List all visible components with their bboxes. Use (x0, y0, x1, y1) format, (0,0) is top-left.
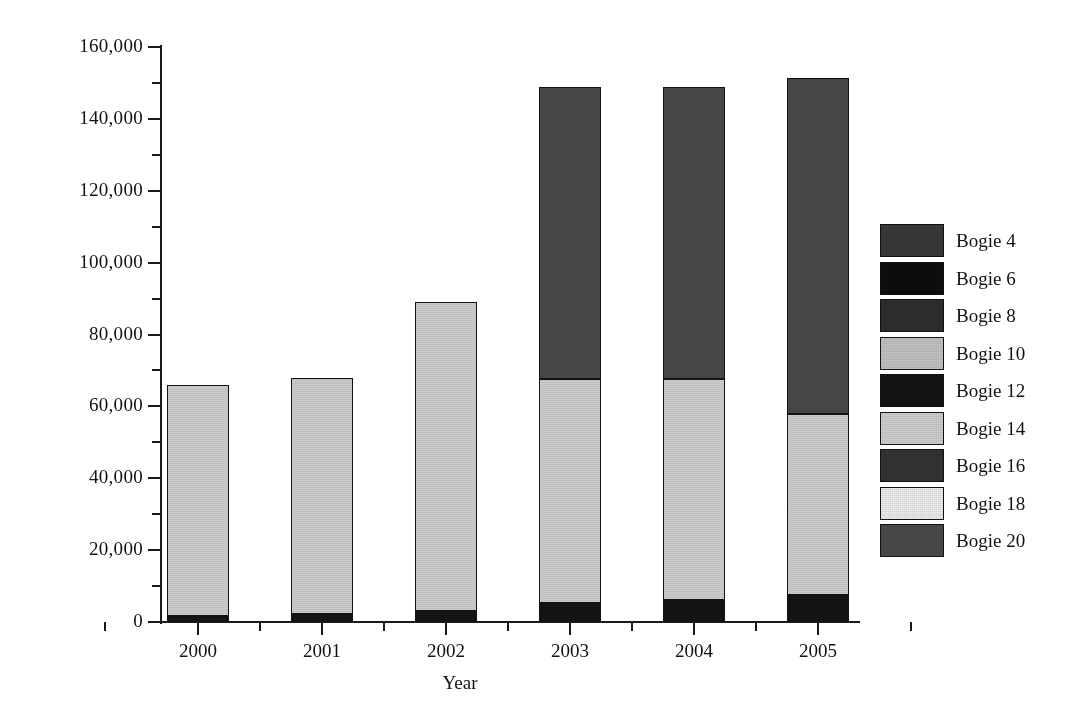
x-tick-minor (507, 622, 509, 631)
y-tick-major (148, 262, 161, 264)
legend-item-bogie-18[interactable]: Bogie 18 (880, 485, 1025, 523)
y-tick-label: 140,000 (33, 108, 143, 127)
legend-swatch-icon (880, 299, 944, 332)
segment-texture (292, 379, 352, 614)
legend-label: Bogie 4 (956, 231, 1016, 250)
legend-label: Bogie 16 (956, 456, 1025, 475)
x-tick-label: 2002 (396, 640, 496, 662)
swatch-texture (881, 450, 943, 481)
legend-item-bogie-6[interactable]: Bogie 6 (880, 260, 1025, 298)
x-tick-minor (755, 622, 757, 631)
swatch-texture (881, 338, 943, 369)
segment-texture (540, 380, 600, 602)
swatch-texture (881, 225, 943, 256)
x-tick-minor (631, 622, 633, 631)
bar-2005 (787, 47, 849, 622)
x-tick-major (197, 622, 199, 635)
segment-texture (788, 79, 848, 414)
y-tick-major (148, 405, 161, 407)
x-tick-label: 2003 (520, 640, 620, 662)
legend-item-bogie-4[interactable]: Bogie 4 (880, 222, 1025, 260)
legend-item-bogie-16[interactable]: Bogie 16 (880, 447, 1025, 485)
legend-label: Bogie 8 (956, 306, 1016, 325)
segment-texture (664, 380, 724, 599)
x-tick-major (321, 622, 323, 635)
x-tick-minor (259, 622, 261, 631)
bar-segment-2000-bogie-12 (167, 616, 229, 622)
legend-item-bogie-10[interactable]: Bogie 10 (880, 335, 1025, 373)
legend-item-bogie-12[interactable]: Bogie 12 (880, 372, 1025, 410)
swatch-texture (881, 525, 943, 556)
bar-segment-2001-bogie-12 (291, 614, 353, 622)
bar-segment-2004-bogie-12 (663, 600, 725, 622)
y-tick-major (148, 621, 161, 623)
legend-swatch-icon (880, 412, 944, 445)
bar-segment-2005-bogie-14 (787, 414, 849, 595)
segment-texture (664, 88, 724, 379)
y-tick-major (148, 46, 161, 48)
segment-texture (540, 88, 600, 379)
stacked-bar-chart: 020,00040,00060,00080,000100,000120,0001… (0, 0, 1080, 725)
legend-swatch-icon (880, 449, 944, 482)
legend-label: Bogie 20 (956, 531, 1025, 550)
swatch-texture (881, 413, 943, 444)
bar-2002 (415, 47, 477, 622)
legend-swatch-icon (880, 524, 944, 557)
y-tick-major (148, 334, 161, 336)
y-tick-label: 20,000 (33, 539, 143, 558)
bar-2001 (291, 47, 353, 622)
y-tick-minor (152, 298, 161, 300)
bar-2000 (167, 47, 229, 622)
segment-texture (292, 615, 352, 621)
legend-item-bogie-20[interactable]: Bogie 20 (880, 522, 1025, 560)
x-axis-title: Year (0, 672, 1080, 694)
y-tick-minor (152, 441, 161, 443)
bar-segment-2002-bogie-12 (415, 611, 477, 622)
legend-swatch-icon (880, 224, 944, 257)
bar-2003 (539, 47, 601, 622)
x-tick-label: 2004 (644, 640, 744, 662)
x-tick-label: 2001 (272, 640, 372, 662)
x-tick-minor (104, 622, 106, 631)
legend-swatch-icon (880, 337, 944, 370)
y-tick-label: 160,000 (33, 36, 143, 55)
x-tick-minor (383, 622, 385, 631)
bar-2004 (663, 47, 725, 622)
legend-swatch-icon (880, 262, 944, 295)
legend: Bogie 4Bogie 6Bogie 8Bogie 10Bogie 12Bog… (880, 222, 1025, 560)
y-tick-minor (152, 82, 161, 84)
legend-label: Bogie 12 (956, 381, 1025, 400)
segment-texture (788, 596, 848, 621)
bar-segment-2005-bogie-12 (787, 595, 849, 622)
legend-swatch-icon (880, 487, 944, 520)
y-tick-label: 80,000 (33, 324, 143, 343)
y-tick-minor (152, 226, 161, 228)
y-tick-major (148, 477, 161, 479)
swatch-texture (881, 263, 943, 294)
y-tick-label: 100,000 (33, 252, 143, 271)
segment-texture (788, 415, 848, 594)
y-tick-minor (152, 513, 161, 515)
legend-item-bogie-14[interactable]: Bogie 14 (880, 410, 1025, 448)
legend-label: Bogie 18 (956, 494, 1025, 513)
legend-label: Bogie 14 (956, 419, 1025, 438)
bar-segment-2004-bogie-14 (663, 379, 725, 600)
bar-segment-2005-bogie-20 (787, 78, 849, 415)
y-tick-minor (152, 585, 161, 587)
segment-texture (416, 612, 476, 621)
legend-item-bogie-8[interactable]: Bogie 8 (880, 297, 1025, 335)
x-tick-minor (910, 622, 912, 631)
bar-segment-2002-bogie-14 (415, 302, 477, 611)
y-tick-label: 120,000 (33, 180, 143, 199)
bar-segment-2003-bogie-14 (539, 379, 601, 603)
x-tick-label: 2005 (768, 640, 868, 662)
x-tick-label: 2000 (148, 640, 248, 662)
y-tick-major (148, 190, 161, 192)
x-tick-major (817, 622, 819, 635)
legend-label: Bogie 10 (956, 344, 1025, 363)
segment-texture (168, 617, 228, 621)
x-tick-major (569, 622, 571, 635)
y-tick-label: 60,000 (33, 395, 143, 414)
bar-segment-2001-bogie-14 (291, 378, 353, 615)
x-axis-title-label: Year (442, 672, 477, 693)
